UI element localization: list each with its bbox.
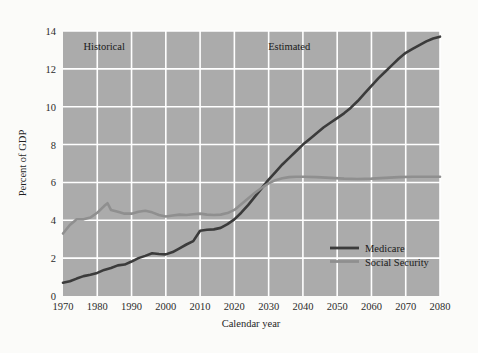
annotation-historical: Historical [83, 41, 124, 52]
annotation-estimated: Estimated [268, 41, 311, 52]
x-axis-title: Calendar year [222, 318, 281, 329]
y-axis-title: Percent of GDP [17, 130, 28, 197]
x-tick-label: 2010 [190, 301, 211, 312]
x-tick-label: 2040 [292, 301, 313, 312]
x-tick-label: 2020 [224, 301, 245, 312]
y-tick-label: 2 [51, 253, 56, 264]
y-tick-label: 8 [51, 140, 56, 151]
y-tick-label: 6 [51, 177, 56, 188]
x-tick-label: 2060 [361, 301, 382, 312]
y-tick-label: 10 [46, 102, 57, 113]
x-tick-label: 2080 [430, 301, 451, 312]
y-tick-label: 0 [51, 291, 56, 302]
x-tick-label: 1980 [87, 301, 108, 312]
y-tick-label: 4 [51, 215, 57, 226]
x-tick-label: 2030 [258, 301, 279, 312]
x-tick-label: 2000 [155, 301, 176, 312]
y-tick-label: 12 [46, 64, 57, 75]
legend-label-medicare: Medicare [365, 243, 405, 254]
x-tick-label: 2050 [327, 301, 348, 312]
x-tick-label: 2070 [395, 301, 416, 312]
y-tick-label: 14 [46, 26, 57, 37]
legend-label-social-security: Social Security [365, 257, 430, 268]
gdp-percent-line-chart: 1970198019902000201020202030204020502060… [0, 0, 478, 353]
x-tick-label: 1970 [53, 301, 74, 312]
chart-figure: 1970198019902000201020202030204020502060… [0, 0, 478, 353]
x-tick-label: 1990 [121, 301, 142, 312]
